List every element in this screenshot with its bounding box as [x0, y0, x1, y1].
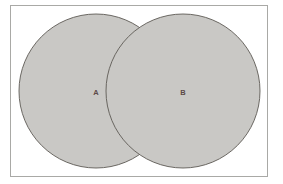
venn-diagram: A B [0, 0, 283, 184]
set-label-a: A [93, 88, 99, 97]
figure-root: A B [0, 0, 283, 184]
set-label-b: B [180, 88, 186, 97]
